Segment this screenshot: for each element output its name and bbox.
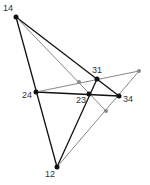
point-24 <box>34 90 39 95</box>
point-34 <box>117 94 122 99</box>
label-31: 31 <box>92 66 102 75</box>
edge-14-34 <box>16 17 119 96</box>
label-23: 23 <box>76 96 86 105</box>
label-14: 14 <box>3 4 13 13</box>
point-14 <box>14 15 19 20</box>
gray-point-3 <box>104 109 108 113</box>
label-24: 24 <box>22 91 32 100</box>
label-34: 34 <box>123 95 133 104</box>
point-12 <box>55 165 60 170</box>
gray-point-1 <box>77 80 81 84</box>
gray-point-2 <box>137 69 141 73</box>
label-12: 12 <box>45 170 55 179</box>
point-23 <box>87 92 92 97</box>
point-31 <box>95 77 100 82</box>
edge-12-31 <box>57 79 97 167</box>
